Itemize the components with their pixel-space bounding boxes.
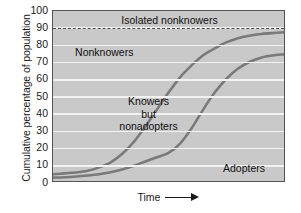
figure: Cumulative percentage of population 1009… [0, 0, 301, 213]
region-label: Isolated nonknowers [121, 13, 217, 26]
y-tick-label: 0 [22, 177, 48, 188]
time-arrow-icon [165, 193, 199, 202]
region-label: Nonknowers [75, 46, 133, 59]
y-tick-label: 80 [22, 39, 48, 50]
plot-area: Isolated nonknowersNonknowersKnowersbutn… [52, 10, 285, 182]
y-axis-tick-labels: 1009080706050403020100 [20, 0, 48, 213]
gridline [53, 148, 284, 150]
y-tick-label: 10 [22, 159, 48, 170]
y-tick-label: 90 [22, 22, 48, 33]
y-tick-label: 20 [22, 142, 48, 153]
gridline [53, 62, 284, 64]
region-label: Knowersbutnonadopters [119, 95, 177, 133]
y-tick-label: 60 [22, 73, 48, 84]
reference-line-dashed [53, 28, 284, 29]
y-tick-label: 50 [22, 91, 48, 102]
gridline [53, 79, 284, 81]
y-tick-label: 30 [22, 125, 48, 136]
y-tick-label: 70 [22, 56, 48, 67]
y-tick-label: 100 [22, 5, 48, 16]
x-axis-label-group: Time [52, 186, 285, 208]
region-label: Adopters [223, 161, 265, 174]
y-tick-label: 40 [22, 108, 48, 119]
x-axis-label: Time [138, 191, 161, 203]
